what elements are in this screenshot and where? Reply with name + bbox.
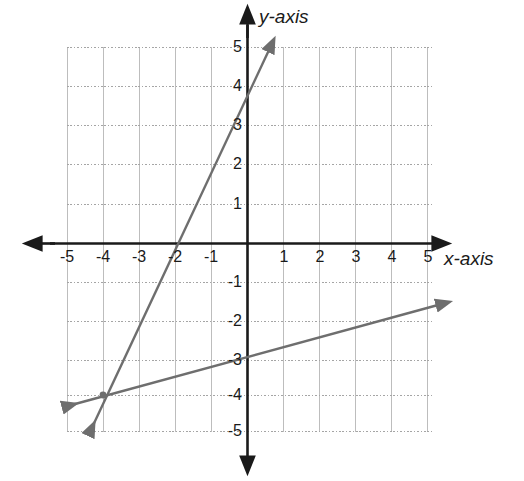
x-tick-5: 5 <box>418 248 438 266</box>
x-tick-3: 3 <box>346 248 366 266</box>
line-shallow <box>64 305 438 407</box>
y-tick-4: 4 <box>222 77 242 95</box>
x-tick-4: 4 <box>382 248 402 266</box>
graph-canvas <box>0 0 524 481</box>
x-tick--4: -4 <box>92 248 114 266</box>
y-tick-3: 3 <box>222 116 242 134</box>
y-tick--4: -4 <box>216 386 242 404</box>
intersection-point <box>100 392 107 399</box>
coordinate-plane-figure: y-axis x-axis -5 -4 -3 -2 -1 1 2 3 4 5 5… <box>0 0 524 481</box>
x-tick--5: -5 <box>56 248 78 266</box>
grid-horizontal <box>67 48 433 432</box>
x-axis-label: x-axis <box>444 248 494 270</box>
y-tick-2: 2 <box>222 155 242 173</box>
y-tick--3: -3 <box>216 351 242 369</box>
y-tick--5: -5 <box>216 422 242 440</box>
y-tick--2: -2 <box>216 312 242 330</box>
y-tick-5: 5 <box>222 38 242 56</box>
y-tick--1: -1 <box>216 273 242 291</box>
x-tick-1: 1 <box>274 248 294 266</box>
x-tick--3: -3 <box>128 248 150 266</box>
x-tick--2: -2 <box>164 248 186 266</box>
x-tick-2: 2 <box>310 248 330 266</box>
y-tick-1: 1 <box>222 195 242 213</box>
y-axis-label: y-axis <box>259 6 309 28</box>
x-tick--1: -1 <box>200 248 222 266</box>
